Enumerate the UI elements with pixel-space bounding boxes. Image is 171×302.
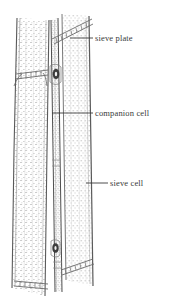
figure-canvas: sieve plate companion cell sieve cell <box>0 0 171 302</box>
right-sieve-cell <box>62 14 93 286</box>
phloem-diagram <box>0 0 171 302</box>
label-sieve-plate: sieve plate <box>95 33 133 43</box>
label-companion-cell: companion cell <box>95 108 149 118</box>
label-sieve-cell: sieve cell <box>110 178 143 188</box>
left-sieve-cell <box>12 18 49 296</box>
